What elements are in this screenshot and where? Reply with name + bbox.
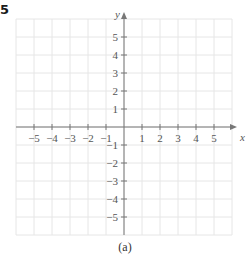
axes: [16, 12, 237, 235]
y-tick-label: 4: [113, 49, 119, 61]
x-axis-label: x: [239, 131, 245, 143]
y-tick-label: −1: [106, 139, 118, 151]
y-axis-label: y: [114, 8, 120, 20]
x-tick-label: 3: [175, 132, 181, 144]
y-tick-label: −4: [106, 193, 118, 205]
y-tick-label: 1: [113, 103, 119, 115]
x-tick-label: 1: [139, 132, 145, 144]
x-tick-label: −2: [82, 132, 94, 144]
x-tick-label: 4: [193, 132, 199, 144]
y-tick-label: 5: [113, 31, 119, 43]
y-tick-label: 3: [113, 67, 119, 79]
y-tick-label: 2: [113, 85, 119, 97]
y-axis-arrow-icon: [121, 12, 127, 19]
x-tick-label: −5: [28, 132, 40, 144]
x-tick-label: 5: [211, 132, 217, 144]
x-tick-label: −3: [64, 132, 76, 144]
x-tick-label: −4: [46, 132, 58, 144]
y-tick-label: −5: [106, 211, 118, 223]
x-axis-arrow-icon: [230, 124, 237, 130]
caption-text: (a): [118, 240, 131, 254]
y-tick-label: −2: [106, 157, 118, 169]
y-tick-label: −3: [106, 175, 118, 187]
figure-caption: (a): [0, 240, 250, 255]
coordinate-plane: −5−4−3−2−112345−5−4−3−2−112345 x y: [0, 0, 250, 259]
x-tick-label: 2: [157, 132, 163, 144]
